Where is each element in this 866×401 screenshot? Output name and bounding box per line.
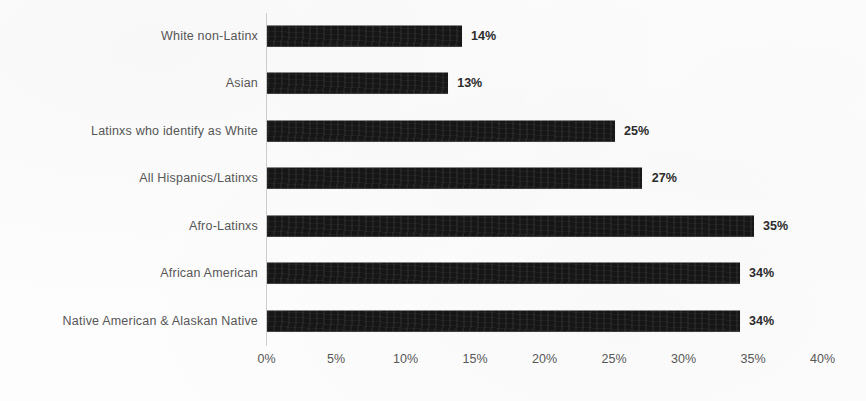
x-tick-label: 5% — [327, 352, 345, 366]
chart-page: White non-Latinx14%Asian13%Latinxs who i… — [0, 0, 866, 401]
bar-row: Asian13% — [0, 61, 866, 106]
x-tick-label: 40% — [810, 352, 835, 366]
bar-value-label: 13% — [457, 76, 482, 90]
category-label: Asian — [226, 76, 258, 90]
bar-value-label: 27% — [652, 171, 677, 185]
cut-off-caption — [0, 389, 866, 401]
bar-row: All Hispanics/Latinxs27% — [0, 156, 866, 201]
bar-value-label: 35% — [763, 219, 788, 233]
bar — [267, 25, 462, 46]
x-tick-label: 20% — [532, 352, 557, 366]
bar-row: African American34% — [0, 251, 866, 296]
bar-row: White non-Latinx14% — [0, 13, 866, 58]
bar — [267, 168, 642, 189]
bar-row: Afro-Latinxs35% — [0, 203, 866, 248]
category-label: White non-Latinx — [161, 29, 258, 43]
x-tick-label: 30% — [671, 352, 696, 366]
x-tick-label: 35% — [740, 352, 765, 366]
x-tick-label: 25% — [601, 352, 626, 366]
category-label: African American — [160, 266, 258, 280]
bar — [267, 215, 754, 236]
bar-value-label: 34% — [749, 314, 774, 328]
x-tick-label: 0% — [257, 352, 275, 366]
bar-value-label: 14% — [471, 29, 496, 43]
x-axis-tick-labels: 0%5%10%15%20%25%30%35%40% — [0, 352, 866, 374]
category-label: All Hispanics/Latinxs — [139, 171, 258, 185]
bar — [267, 120, 615, 141]
bar-value-label: 34% — [749, 266, 774, 280]
bar — [267, 263, 740, 284]
bar-row: Latinxs who identify as White25% — [0, 108, 866, 153]
x-tick-label: 10% — [393, 352, 418, 366]
x-tick-label: 15% — [462, 352, 487, 366]
category-label: Latinxs who identify as White — [91, 124, 258, 138]
category-label: Native American & Alaskan Native — [63, 314, 258, 328]
bar — [267, 310, 740, 331]
category-label: Afro-Latinxs — [189, 219, 258, 233]
bar — [267, 73, 448, 94]
bar-row: Native American & Alaskan Native34% — [0, 298, 866, 343]
bar-value-label: 25% — [624, 124, 649, 138]
bar-chart-plot-area: White non-Latinx14%Asian13%Latinxs who i… — [0, 0, 866, 401]
